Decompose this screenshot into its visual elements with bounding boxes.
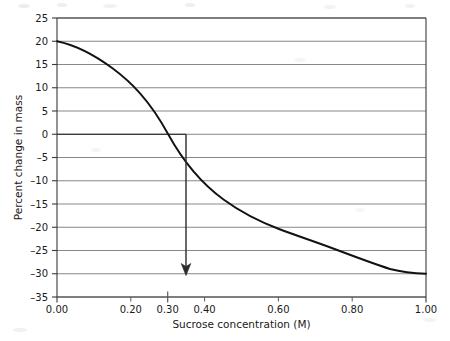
x-tick-label: 0.80 xyxy=(341,304,363,315)
y-tick-label: –10 xyxy=(30,175,48,186)
y-axis-title: Percent change in mass xyxy=(12,95,24,220)
y-tick-label: 15 xyxy=(35,59,48,70)
y-tick-label: 20 xyxy=(35,36,48,47)
x-tick-label: 1.00 xyxy=(415,304,437,315)
x-tick-label: 0.20 xyxy=(120,304,142,315)
y-tick-label: 0 xyxy=(42,129,48,140)
x-tick-label: 0.40 xyxy=(193,304,215,315)
chart-background xyxy=(0,0,450,341)
y-tick-label: 25 xyxy=(35,13,48,24)
x-tick-label: 0.30 xyxy=(157,304,179,315)
chart-svg: 25 20 15 10 5 0 –5 –10 –15 –20 –25 –30 –… xyxy=(0,0,450,341)
y-tick-label: 5 xyxy=(42,106,48,117)
y-tick-label: –30 xyxy=(30,268,48,279)
y-tick-label: –25 xyxy=(30,245,48,256)
y-tick-label: –35 xyxy=(30,292,48,303)
y-tick-label: –15 xyxy=(30,199,48,210)
y-tick-label: –5 xyxy=(37,152,48,163)
chart-figure: 25 20 15 10 5 0 –5 –10 –15 –20 –25 –30 –… xyxy=(0,0,450,341)
x-tick-label: 0.60 xyxy=(267,304,289,315)
x-tick-label: 0.00 xyxy=(46,304,68,315)
y-tick-label: 10 xyxy=(35,82,48,93)
y-tick-label: –20 xyxy=(30,222,48,233)
x-axis-title: Sucrose concentration (M) xyxy=(172,318,310,330)
